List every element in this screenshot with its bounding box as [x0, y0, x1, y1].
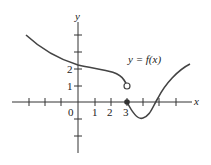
x-axis-label: x — [193, 95, 199, 107]
open-circle-marker — [124, 83, 130, 89]
curve-left-piece — [26, 35, 127, 85]
function-label: y = f(x) — [127, 53, 161, 66]
curve-right-piece — [127, 64, 190, 118]
x-tick-label-1: 1 — [92, 106, 98, 118]
y-tick-label-1: 1 — [67, 80, 73, 92]
function-graph: x y 0 1 2 3 1 2 y = f(x) — [0, 0, 211, 165]
filled-dot-marker — [124, 99, 130, 105]
x-tick-label-2: 2 — [107, 106, 113, 118]
x-tick-label-3: 3 — [123, 106, 129, 118]
y-axis-label: y — [74, 10, 80, 22]
x-tick-label-0: 0 — [68, 106, 74, 118]
y-tick-label-2: 2 — [67, 63, 73, 75]
